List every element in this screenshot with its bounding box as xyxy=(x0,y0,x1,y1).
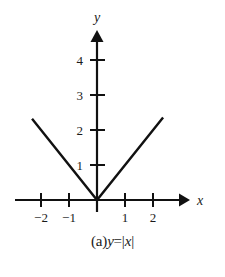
x-tick-label-2: 2 xyxy=(150,210,157,225)
absolute-value-graph-figure: −2 −1 1 2 1 2 3 4 x y (a)y=|x| xyxy=(0,0,225,277)
y-tick-label-3: 3 xyxy=(77,88,84,103)
caption-label: (a) xyxy=(91,233,107,249)
y-axis-label: y xyxy=(92,10,101,25)
x-axis-label: x xyxy=(196,193,204,208)
y-tick-label-2: 2 xyxy=(77,123,84,138)
y-tick-label-1: 1 xyxy=(77,158,84,173)
x-tick-label-minus2: −2 xyxy=(34,210,48,225)
figure-caption: (a)y=|x| xyxy=(0,233,225,250)
y-tick-label-4: 4 xyxy=(77,53,84,68)
caption-close-bar: | xyxy=(131,233,134,249)
x-axis-arrowhead xyxy=(179,194,190,207)
y-axis-arrowhead xyxy=(91,30,104,42)
x-tick-label-1: 1 xyxy=(122,210,129,225)
caption-equals-bar: =| xyxy=(114,233,125,249)
x-tick-label-minus1: −1 xyxy=(62,210,76,225)
